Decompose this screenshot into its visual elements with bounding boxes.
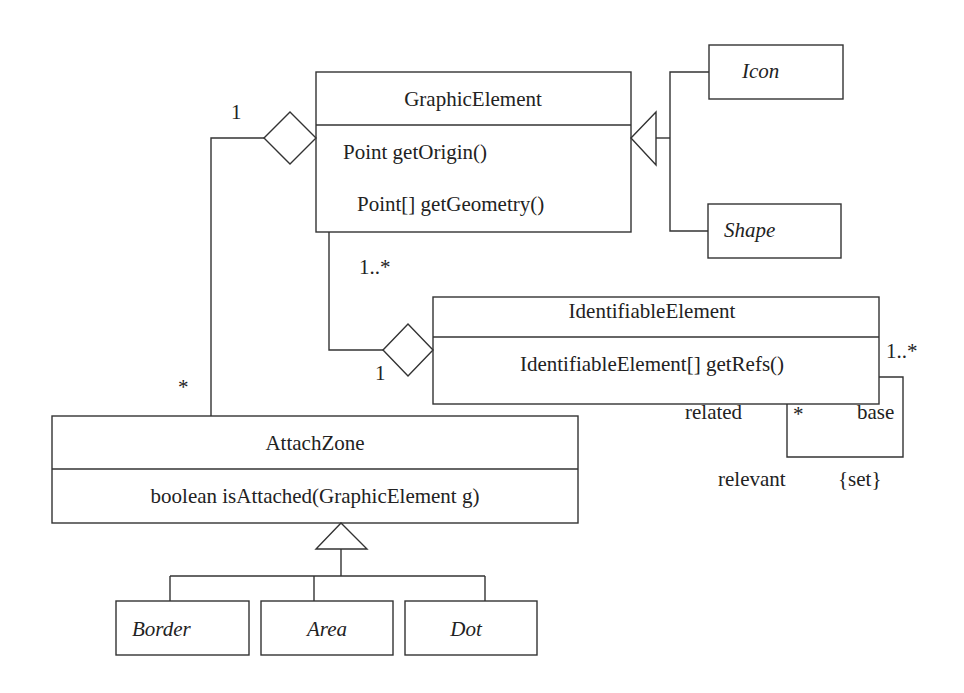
graphic-element-name: GraphicElement xyxy=(404,87,542,111)
multiplicity-base: 1..* xyxy=(886,339,918,363)
aggregation-diamond-icon xyxy=(264,112,316,164)
role-base: base xyxy=(857,400,894,424)
multiplicity-attach-zone: * xyxy=(178,375,189,399)
aggregation-diamond-icon xyxy=(383,324,433,376)
aggregation-identifiable-line xyxy=(329,232,383,350)
uml-class-diagram: GraphicElement Point getOrigin() Point[]… xyxy=(0,0,964,693)
constraint-set: {set} xyxy=(838,467,882,491)
class-attach-zone: AttachZone boolean isAttached(GraphicEle… xyxy=(52,416,578,523)
association-name-relevant: relevant xyxy=(718,467,786,491)
aggregation-attach-line xyxy=(211,138,264,416)
class-graphic-element: GraphicElement Point getOrigin() Point[]… xyxy=(316,72,631,232)
class-area: Area xyxy=(261,601,393,655)
role-related: related xyxy=(685,400,743,424)
graphic-element-method-0: Point getOrigin() xyxy=(343,140,487,164)
aggregation-attach-zone: 1 * xyxy=(178,100,316,416)
generalization-triangle-icon xyxy=(316,523,367,549)
identifiable-element-method-0: IdentifiableElement[] getRefs() xyxy=(520,352,784,376)
generalization-branch-line xyxy=(670,72,709,231)
dot-name: Dot xyxy=(449,617,483,641)
multiplicity-related: * xyxy=(793,402,804,426)
border-name: Border xyxy=(132,617,192,641)
shape-name: Shape xyxy=(724,218,775,242)
icon-name: Icon xyxy=(741,59,779,83)
class-icon: Icon xyxy=(709,45,843,99)
class-identifiable-element: IdentifiableElement IdentifiableElement[… xyxy=(433,297,879,404)
multiplicity-identifiable-whole: 1 xyxy=(375,361,386,385)
graphic-element-method-1: Point[] getGeometry() xyxy=(357,192,544,216)
class-dot: Dot xyxy=(405,601,537,655)
class-border: Border xyxy=(116,601,249,655)
generalization-graphic-element xyxy=(631,72,709,231)
generalization-triangle-icon xyxy=(631,112,656,165)
aggregation-identifiable: 1..* 1 xyxy=(329,232,433,385)
attach-zone-method-0: boolean isAttached(GraphicElement g) xyxy=(151,484,480,508)
multiplicity-graphic-whole: 1 xyxy=(231,100,242,124)
multiplicity-graphic-element: 1..* xyxy=(359,255,391,279)
generalization-attach-zone xyxy=(170,523,485,601)
class-shape: Shape xyxy=(708,204,841,258)
attach-zone-name: AttachZone xyxy=(265,431,364,455)
area-name: Area xyxy=(305,617,347,641)
identifiable-element-name: IdentifiableElement xyxy=(569,299,736,323)
